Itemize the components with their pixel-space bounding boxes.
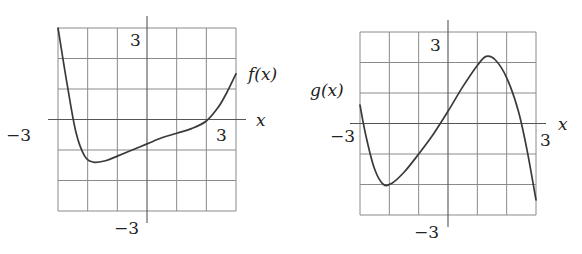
f-tick-x-pos: 3 — [216, 127, 227, 144]
g-tick-y-neg: −3 — [414, 224, 439, 241]
g-tick-x-pos: 3 — [540, 132, 551, 149]
g-function-label: g(x) — [310, 82, 344, 99]
g-tick-y-pos: 3 — [430, 37, 441, 54]
f-tick-y-neg: −3 — [114, 220, 139, 237]
graph-f — [48, 16, 246, 223]
g-tick-x-neg: −3 — [330, 128, 355, 145]
f-function-label: f(x) — [248, 66, 277, 83]
graphs-canvas — [0, 0, 582, 254]
f-tick-y-pos: 3 — [130, 32, 141, 49]
f-x-axis-label: x — [256, 112, 266, 129]
f-tick-x-neg: −3 — [6, 127, 31, 144]
graph-g — [350, 20, 546, 227]
g-x-axis-label: x — [558, 116, 568, 133]
